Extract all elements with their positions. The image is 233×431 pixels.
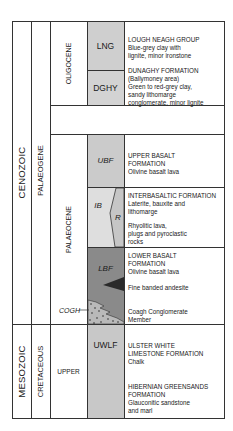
unit-lbf-code: LBF xyxy=(98,264,113,273)
desc-dghy: DUNAGHY FORMATION (Ballymoney area) Gree… xyxy=(128,67,204,107)
desc-lng: LOUGH NEAGH GROUP Blue-grey clay with li… xyxy=(128,36,199,60)
unit-lbf: LBF xyxy=(87,262,124,274)
unit-cogh-code: COGH xyxy=(59,307,80,314)
divider-unit-desc-bottom xyxy=(124,134,125,419)
unit-cogh: COGH xyxy=(52,304,80,316)
epoch-upper: UPPER xyxy=(50,324,87,418)
desc-rhyolite-line: Rhyolitic lava, xyxy=(128,222,187,230)
desc-ubf-line: FORMATION xyxy=(128,160,179,168)
desc-uwlf-line: Chalk xyxy=(128,358,203,366)
unit-ubf: UBF xyxy=(87,134,124,187)
desc-cogh-line: Member xyxy=(128,316,188,324)
desc-uwlf-title: ULSTER WHITE xyxy=(128,342,203,350)
desc-andesite: Fine banded andesite xyxy=(128,284,189,292)
desc-dghy-line: conglomerate, minor lignite xyxy=(128,99,204,107)
unit-r-code: R xyxy=(115,213,121,222)
unit-ubf-code: UBF xyxy=(98,156,114,165)
epoch-oligocene-label: OLIGOCENE xyxy=(65,42,72,84)
desc-uwlf-line: LIMESTONE FORMATION xyxy=(128,350,203,358)
desc-lbf: LOWER BASALT FORMATION Olivine basalt la… xyxy=(128,252,179,276)
era-cenozoic: CENOZOIC xyxy=(12,21,31,324)
desc-rhyolite: Rhyolitic lava, plugs and pyroclastic ro… xyxy=(128,222,187,246)
epoch-oligocene: OLIGOCENE xyxy=(50,21,87,105)
divider-ib-lbf xyxy=(87,247,225,248)
desc-ubf-title: UPPER BASALT xyxy=(128,152,179,160)
desc-ib: INTERBASALTIC FORMATION Laterite, bauxit… xyxy=(128,192,216,216)
era-mesozoic-label: MESOZOIC xyxy=(16,345,27,397)
epoch-palaeocene-label: PALAEOCENE xyxy=(65,206,72,253)
desc-dghy-line: sandy lithomarge xyxy=(128,91,204,99)
desc-lbf-line: Olivine basalt lava xyxy=(128,268,179,276)
desc-hibernian-line: FORMATION xyxy=(128,391,208,399)
desc-cogh-line: Coagh Conglomerate xyxy=(128,308,188,316)
desc-dghy-line: Green to red-grey clay, xyxy=(128,83,204,91)
desc-dghy-line: (Ballymoney area) xyxy=(128,75,204,83)
period-palaeogene-label: PALAEOGENE xyxy=(36,145,45,196)
era-mesozoic: MESOZOIC xyxy=(12,324,31,418)
unit-uwlf-code: UWLF xyxy=(93,340,117,350)
unit-dghy: DGHY xyxy=(87,70,124,105)
desc-lng-title: LOUGH NEAGH GROUP xyxy=(128,36,199,44)
period-cretaceous-label: CRETACEOUS xyxy=(36,345,45,397)
desc-hibernian-line: and marl xyxy=(128,407,208,415)
unit-lng: LNG xyxy=(87,21,124,70)
desc-ubf: UPPER BASALT FORMATION Olivine basalt la… xyxy=(128,152,179,176)
epoch-palaeocene: PALAEOCENE xyxy=(50,134,87,324)
era-cenozoic-label: CENOZOIC xyxy=(16,147,27,199)
desc-ubf-line: Olivine basalt lava xyxy=(128,168,179,176)
desc-andesite-line: Fine banded andesite xyxy=(128,284,189,292)
desc-hibernian-title: HIBERNIAN GREENSANDS xyxy=(128,383,208,391)
desc-lng-line: Blue-grey clay with xyxy=(128,44,199,52)
desc-ib-line: lithomarge xyxy=(128,208,216,216)
unit-uwlf: UWLF xyxy=(87,324,124,366)
unit-dghy-code: DGHY xyxy=(93,83,118,93)
desc-hibernian: HIBERNIAN GREENSANDS FORMATION Glauconit… xyxy=(128,383,208,415)
desc-hibernian-line: Glauconitic sandstone xyxy=(128,399,208,407)
divider-unit-desc-top xyxy=(124,21,125,105)
desc-lbf-line: FORMATION xyxy=(128,260,179,268)
desc-cogh: Coagh Conglomerate Member xyxy=(128,308,188,324)
desc-dghy-title: DUNAGHY FORMATION xyxy=(128,67,204,75)
unit-ib: IB xyxy=(88,198,108,212)
desc-ib-line: Laterite, bauxite and xyxy=(128,200,216,208)
desc-lbf-title: LOWER BASALT xyxy=(128,252,179,260)
period-palaeogene: PALAEOGENE xyxy=(31,120,50,220)
desc-lng-line: lignite, minor ironstone xyxy=(128,52,199,60)
unit-lng-code: LNG xyxy=(97,41,114,51)
desc-uwlf: ULSTER WHITE LIMESTONE FORMATION Chalk xyxy=(128,342,203,366)
epoch-upper-label: UPPER xyxy=(57,368,79,375)
desc-rhyolite-line: rocks xyxy=(128,238,187,246)
divider-ubf-ib xyxy=(87,187,225,188)
desc-ib-title: INTERBASALTIC FORMATION xyxy=(128,192,216,200)
period-cretaceous: CRETACEOUS xyxy=(31,324,50,418)
unit-r: R xyxy=(112,210,124,224)
desc-rhyolite-line: plugs and pyroclastic xyxy=(128,230,187,238)
unit-ib-code: IB xyxy=(94,201,102,210)
